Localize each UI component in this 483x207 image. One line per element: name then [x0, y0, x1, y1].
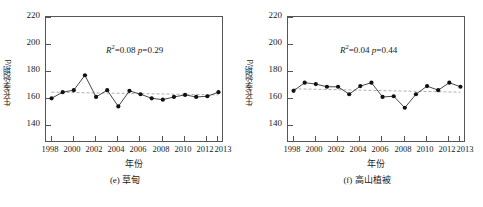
data-point [116, 104, 120, 108]
y-tick-label-200-f: 200 [252, 38, 282, 47]
data-point [347, 92, 351, 96]
data-point [380, 95, 384, 99]
chart-panel-f: 生长季始期/d 220 200 180 160 140 [242, 0, 483, 207]
series-line-f [294, 83, 461, 108]
y-tick-label-200-e: 200 [10, 38, 40, 47]
stats-annotation-e: R2=0.08 p=0.29 [106, 42, 163, 55]
x-axis-title-f: 年份 [287, 159, 465, 169]
x-axis-title-e: 年份 [45, 159, 223, 169]
data-point [358, 84, 362, 88]
series-markers-e [49, 73, 220, 108]
data-point [94, 95, 98, 99]
data-point [325, 85, 329, 89]
data-point [392, 94, 396, 98]
y-tick-label-220-f: 220 [252, 11, 282, 20]
data-point [205, 94, 209, 98]
data-point [336, 85, 340, 89]
x-tick-label-2013-e: 2013 [208, 145, 238, 154]
data-point [150, 96, 154, 100]
data-point [216, 90, 220, 94]
data-point [447, 81, 451, 85]
data-point [161, 98, 165, 102]
y-tick-label-180-f: 180 [252, 65, 282, 74]
y-tick-label-220-e: 220 [10, 11, 40, 20]
data-point [83, 73, 87, 77]
data-point [61, 90, 65, 94]
p-value-e: =0.29 [142, 45, 163, 55]
y-tick-label-140-e: 140 [10, 119, 40, 128]
p-value-f: =0.44 [376, 45, 397, 55]
data-point [303, 81, 307, 85]
series-line-e [52, 75, 219, 106]
r2-value-f: =0.04 [349, 45, 372, 55]
r2-value-e: =0.08 [115, 45, 138, 55]
data-point [414, 92, 418, 96]
series-markers-f [291, 81, 462, 110]
data-point [183, 93, 187, 97]
plot-area-e: R2=0.08 p=0.29 [45, 16, 223, 142]
plot-area-f: R2=0.04 p=0.44 [287, 16, 465, 142]
data-point [403, 106, 407, 110]
data-point [172, 95, 176, 99]
y-tick-label-140-f: 140 [252, 119, 282, 128]
data-point [49, 96, 53, 100]
panel-caption-e: (e) 草甸 [25, 175, 225, 185]
data-series-e [46, 17, 224, 143]
panel-caption-f: (f) 高山植被 [267, 175, 467, 185]
stats-annotation-f: R2=0.04 p=0.44 [340, 42, 397, 55]
data-point [291, 89, 295, 93]
data-point [127, 89, 131, 93]
chart-panel-e: 生长季始期/d 220 200 180 160 140 [0, 0, 241, 207]
data-point [72, 88, 76, 92]
y-tick-label-160-e: 160 [10, 92, 40, 101]
y-tick-label-180-e: 180 [10, 65, 40, 74]
data-point [314, 82, 318, 86]
data-point [105, 88, 109, 92]
data-series-f [288, 17, 466, 143]
data-point [425, 84, 429, 88]
data-point [194, 95, 198, 99]
y-tick-label-160-f: 160 [252, 92, 282, 101]
data-point [369, 81, 373, 85]
figure-panel-pair: 生长季始期/d 220 200 180 160 140 [0, 0, 483, 207]
data-point [436, 88, 440, 92]
data-point [138, 92, 142, 96]
x-tick-label-2013-f: 2013 [450, 145, 480, 154]
data-point [458, 85, 462, 89]
